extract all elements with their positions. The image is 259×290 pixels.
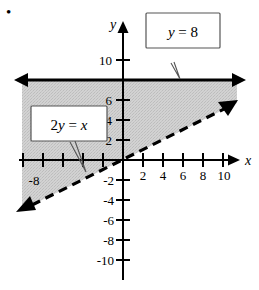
- x-tick-label-4: 4: [160, 168, 167, 183]
- y-tick-label-neg6: -6: [103, 213, 114, 228]
- y-tick-label-neg8: -8: [103, 233, 114, 248]
- callout-2yx-text: 2y = x: [51, 117, 88, 133]
- x-tick-label-6: 6: [180, 168, 187, 183]
- x-tick-label-2: 2: [140, 168, 147, 183]
- y-tick-label-10: 10: [99, 53, 112, 68]
- y-tick-label-neg10: -10: [97, 253, 114, 268]
- callout-y8-text: y = 8: [166, 24, 198, 40]
- inequality-graph-figure: • x y -8 2 4 6 8 10: [0, 0, 259, 290]
- y-axis-label: y: [108, 17, 117, 32]
- x-tick-label-8: 8: [200, 168, 207, 183]
- x-tick-label-neg8: -8: [29, 173, 40, 188]
- y-tick-label-neg4: -4: [103, 193, 114, 208]
- y-tick-label-neg2: -2: [103, 173, 114, 188]
- x-axis-label: x: [244, 153, 252, 168]
- exercise-bullet: •: [6, 4, 11, 20]
- x-tick-label-10: 10: [218, 168, 231, 183]
